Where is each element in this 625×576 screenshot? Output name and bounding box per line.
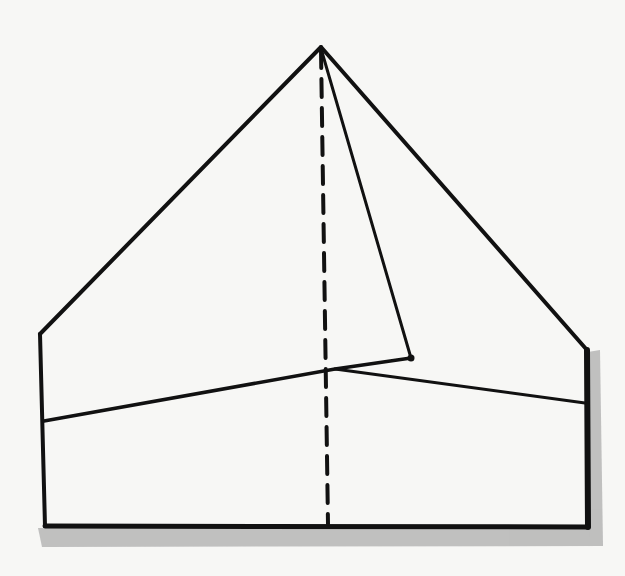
diagram-svg (0, 0, 625, 576)
bottom-edge (45, 526, 588, 527)
fold-diagram (0, 0, 625, 576)
fold-tip-dot (408, 355, 415, 362)
right-side-edge (587, 350, 588, 527)
